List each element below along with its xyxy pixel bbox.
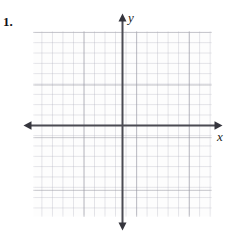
axes-layer xyxy=(0,0,238,238)
y-axis-label: y xyxy=(128,11,134,24)
x-axis-label: x xyxy=(217,130,223,143)
y-axis-bottom-arrowhead xyxy=(119,223,127,231)
y-axis-top-arrowhead xyxy=(119,14,127,22)
worksheet-page: 1. y x xyxy=(0,0,238,238)
x-axis-left-arrowhead xyxy=(24,121,32,130)
coordinate-plane: y x xyxy=(0,0,238,238)
